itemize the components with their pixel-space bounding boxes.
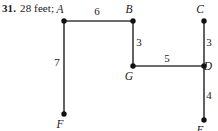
edge-length-label-bg: 3 (136, 36, 142, 48)
vertex-label-c: C (196, 3, 204, 15)
edge-length-label-ab: 6 (94, 5, 100, 17)
edge-length-label-af: 7 (54, 56, 60, 68)
vertex-label-g: G (125, 70, 134, 82)
vertices-group (61, 18, 206, 122)
vertex-label-d: D (203, 60, 213, 72)
figure-container: 31.28 feet; 673534 ABCDGFE (0, 0, 218, 131)
vertex-point-b (130, 18, 135, 23)
edge-length-label-cd: 3 (206, 36, 212, 48)
vertex-label-e: E (195, 124, 203, 131)
vertex-label-b: B (125, 3, 132, 15)
vertex-point-f (61, 111, 66, 116)
vertex-point-g (130, 63, 135, 68)
edge-length-label-de: 4 (206, 89, 212, 101)
edge-length-label-gd: 5 (164, 52, 170, 64)
rectilinear-path-diagram: 673534 ABCDGFE (0, 0, 218, 131)
vertex-label-a: A (55, 3, 64, 15)
vertex-point-a (61, 18, 66, 23)
vertex-point-e (201, 117, 206, 122)
edges-group (64, 21, 204, 120)
vertex-point-c (201, 18, 206, 23)
vertex-label-f: F (55, 118, 64, 130)
